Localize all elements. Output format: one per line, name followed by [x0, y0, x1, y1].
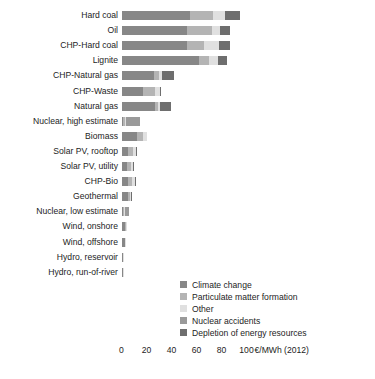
legend-swatch-icon [180, 329, 187, 336]
bar-segment [126, 117, 140, 126]
category-label: Wind, onshore [0, 222, 118, 231]
bar-segment [160, 102, 171, 111]
bar-segment [122, 102, 156, 111]
category-label: Nuclear, high estimate [0, 117, 118, 126]
category-label: CHP-Natural gas [0, 71, 118, 80]
bar-segment [122, 11, 191, 20]
x-axis-unit-label: €/MWh (2012) [255, 345, 309, 356]
bar-row [122, 177, 136, 186]
bar-segment [209, 56, 218, 65]
category-label: CHP-Waste [0, 87, 118, 96]
bar-row [122, 26, 231, 35]
bar-segment [126, 222, 127, 231]
bar-segment [204, 41, 219, 50]
bar-segment [187, 41, 205, 50]
chart-legend: Climate changeParticulate matter formati… [180, 279, 370, 339]
legend-item[interactable]: Other [180, 303, 370, 315]
bar-segment [122, 177, 129, 186]
legend-label: Climate change [192, 279, 252, 291]
bar-segment [122, 87, 143, 96]
legend-item[interactable]: Depletion of energy resources [180, 327, 370, 339]
bar-segment [143, 132, 147, 141]
legend-label: Particulate matter formation [192, 291, 298, 303]
x-tick-label: 0 [119, 345, 124, 356]
bar-row [122, 87, 161, 96]
category-label: Geothermal [0, 192, 118, 201]
category-label: Nuclear, low estimate [0, 207, 118, 216]
bar-segment [162, 71, 175, 80]
category-label: CHP-Bio [0, 177, 118, 186]
bar-row [122, 11, 241, 20]
x-tick-label: 80 [217, 345, 227, 356]
legend-swatch-icon [180, 305, 187, 312]
legend-swatch-icon [180, 317, 187, 324]
bar-segment [135, 177, 136, 186]
x-tick-label: 40 [167, 345, 177, 356]
bar-row [122, 162, 135, 171]
bar-row [122, 117, 140, 126]
bar-row [122, 41, 231, 50]
bar-segment [122, 56, 200, 65]
bar-segment [122, 132, 137, 141]
legend-swatch-icon [180, 281, 187, 288]
category-label: Hydro, run-of-river [0, 268, 118, 277]
bar-row [122, 192, 132, 201]
legend-label: Depletion of energy resources [192, 327, 307, 339]
bar-segment [199, 56, 209, 65]
bar-segment [122, 26, 187, 35]
bar-segment [187, 26, 212, 35]
x-tick-label: 20 [142, 345, 152, 356]
bar-segment [190, 11, 213, 20]
category-label: Hydro, reservoir [0, 253, 118, 262]
bar-segment [160, 87, 161, 96]
bar-segment [133, 162, 134, 171]
legend-swatch-icon [180, 293, 187, 300]
bar-segment [122, 147, 129, 156]
category-label: Hard coal [0, 11, 118, 20]
bar-row [122, 147, 137, 156]
category-label: CHP-Hard coal [0, 41, 118, 50]
category-label: Lignite [0, 56, 118, 65]
bar-segment [125, 207, 129, 216]
bar-row [122, 253, 124, 262]
stacked-bar-chart: Hard coalOilCHP-Hard coalLigniteCHP-Natu… [0, 0, 375, 379]
bar-segment [136, 147, 137, 156]
legend-item[interactable]: Particulate matter formation [180, 291, 370, 303]
bar-segment [219, 41, 230, 50]
category-label: Natural gas [0, 102, 118, 111]
bar-segment [125, 238, 126, 247]
category-label: Solar PV, utility [0, 162, 118, 171]
legend-label: Other [192, 303, 214, 315]
plot-area [122, 8, 372, 280]
bar-segment [143, 87, 156, 96]
bar-segment [131, 192, 132, 201]
category-label: Solar PV, rooftop [0, 147, 118, 156]
legend-label: Nuclear accidents [192, 315, 260, 327]
legend-item[interactable]: Nuclear accidents [180, 315, 370, 327]
category-label: Biomass [0, 132, 118, 141]
bar-row [122, 238, 127, 247]
category-label: Oil [0, 26, 118, 35]
bar-row [122, 102, 171, 111]
bar-segment [220, 26, 230, 35]
category-axis-labels: Hard coalOilCHP-Hard coalLigniteCHP-Natu… [0, 8, 118, 280]
category-label: Wind, offshore [0, 238, 118, 247]
bar-row [122, 222, 128, 231]
bar-segment [122, 41, 187, 50]
bar-row [122, 207, 129, 216]
bar-segment [225, 11, 240, 20]
bar-segment [122, 71, 155, 80]
x-tick-label: 60 [192, 345, 202, 356]
bar-row [122, 71, 175, 80]
bar-segment [218, 56, 227, 65]
bar-row [122, 268, 124, 277]
bar-segment [212, 26, 221, 35]
bar-segment [213, 11, 226, 20]
bar-row [122, 56, 227, 65]
bar-row [122, 132, 147, 141]
x-axis: 020406080100€/MWh (2012) [122, 345, 372, 361]
legend-item[interactable]: Climate change [180, 279, 370, 291]
x-tick-label: 100 [239, 345, 253, 356]
